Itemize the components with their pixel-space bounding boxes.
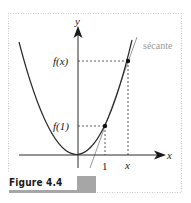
y-tick-fx: f(x) bbox=[53, 55, 69, 68]
figure-4-4: y x 1 x f(1) f(x) sécante Figure 4.4 bbox=[0, 0, 191, 203]
x-axis-label: x bbox=[166, 149, 172, 161]
x-tick-x: x bbox=[124, 159, 130, 171]
secant-label: sécante bbox=[143, 40, 173, 51]
x-tick-1: 1 bbox=[102, 160, 108, 172]
secant-line bbox=[90, 37, 137, 168]
point-fx bbox=[126, 59, 130, 63]
parabola-secant-diagram: y x 1 x f(1) f(x) sécante bbox=[0, 0, 191, 203]
caption-bar bbox=[9, 190, 96, 193]
point-f1 bbox=[103, 124, 107, 128]
y-axis-label: y bbox=[74, 15, 80, 27]
figure-caption: Figure 4.4 bbox=[9, 176, 62, 189]
y-tick-f1: f(1) bbox=[53, 120, 69, 133]
guide-lines bbox=[78, 61, 128, 155]
